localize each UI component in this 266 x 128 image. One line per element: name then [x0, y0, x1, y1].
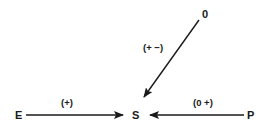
edge-label-o-s: (+ −) [143, 43, 163, 53]
node-p: P [247, 110, 254, 121]
edge-label-p-s: (0 +) [193, 98, 213, 108]
node-o: 0 [202, 9, 208, 20]
edge-o-to-s [144, 20, 199, 97]
node-s: S [132, 110, 139, 121]
node-e: E [15, 110, 22, 121]
edge-label-e-s: (+) [61, 98, 73, 108]
